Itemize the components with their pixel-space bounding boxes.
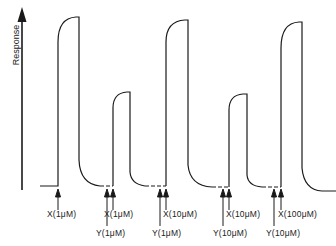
peak-2: [113, 92, 145, 186]
marker-label-x4: X(10μM): [226, 209, 260, 219]
arrow-y3: [221, 189, 226, 226]
peak-5: [281, 22, 336, 191]
arrow-x5: [279, 189, 284, 210]
arrow-x4: [227, 189, 232, 210]
marker-label-y2: Y(1μM): [152, 228, 181, 238]
marker-label-y4: Y(10μM): [266, 228, 300, 238]
marker-label-y1: Y(1μM): [96, 228, 125, 238]
arrow-x1: [56, 189, 61, 210]
peak-3: [166, 20, 212, 187]
marker-label-y3: Y(10μM): [213, 228, 247, 238]
arrow-y1: [105, 189, 110, 226]
trace: [40, 17, 336, 191]
y-axis-label: Response: [11, 23, 21, 67]
marker-label-x1: X(1μM): [47, 209, 76, 219]
peak-1: [40, 17, 100, 186]
peak-4: [229, 94, 262, 187]
arrow-y2: [158, 189, 163, 226]
marker-label-x3: X(10μM): [163, 209, 197, 219]
marker-label-x5: X(100μM): [278, 209, 317, 219]
arrow-x3: [164, 189, 169, 210]
arrow-y4: [272, 189, 277, 226]
marker-arrows: [56, 189, 284, 226]
marker-label-x2: X(1μM): [104, 209, 133, 219]
arrow-x2: [111, 189, 116, 210]
